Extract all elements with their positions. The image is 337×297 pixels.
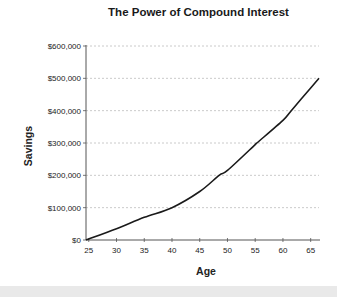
savings-line <box>86 78 319 240</box>
x-tick-label: 65 <box>306 246 315 255</box>
y-tick-label: $300,000 <box>48 139 82 148</box>
x-tick-label: 40 <box>168 246 177 255</box>
y-tick-label: $0 <box>72 236 81 245</box>
y-tick-label: $100,000 <box>48 204 82 213</box>
line-chart: $0$100,000$200,000$300,000$400,000$500,0… <box>0 0 337 297</box>
footer-band <box>0 286 337 297</box>
x-tick-label: 25 <box>84 246 93 255</box>
y-tick-label: $200,000 <box>48 171 82 180</box>
x-tick-label: 45 <box>195 246 204 255</box>
x-tick-label: 30 <box>112 246 121 255</box>
x-tick-label: 55 <box>251 246 260 255</box>
y-tick-label: $500,000 <box>48 74 82 83</box>
x-tick-label: 50 <box>223 246 232 255</box>
y-tick-label: $400,000 <box>48 107 82 116</box>
x-tick-label: 35 <box>140 246 149 255</box>
x-tick-label: 60 <box>278 246 287 255</box>
y-tick-label: $600,000 <box>48 42 82 51</box>
